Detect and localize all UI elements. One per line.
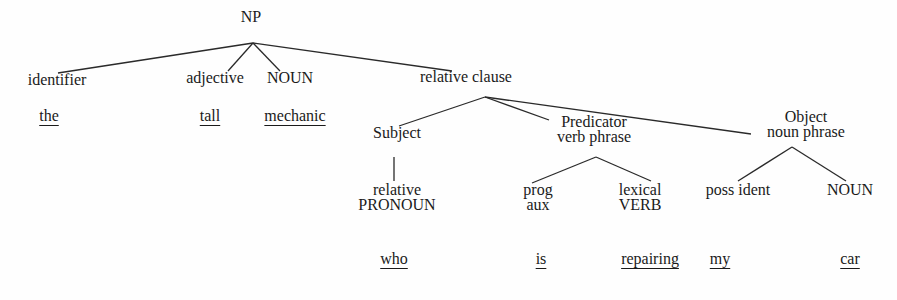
node-adjective: adjective (186, 70, 244, 85)
edge-object-noun2 (792, 147, 846, 181)
word-repairing: repairing (621, 250, 679, 268)
syntax-tree-diagram: NPidentifieradjectiveNOUNrelative clause… (0, 0, 897, 300)
word-is: is (536, 250, 547, 268)
node-label: adjective (186, 70, 244, 85)
edge-np-noun1 (253, 43, 280, 71)
node-label: aux (523, 197, 552, 212)
edge-relative-clause-predicator (485, 97, 549, 120)
word-the: the (39, 107, 59, 125)
node-label: NOUN (827, 182, 873, 197)
node-label: verb phrase (557, 129, 631, 144)
node-label: NP (241, 9, 261, 24)
word-tall: tall (200, 107, 220, 125)
edge-np-relative-clause (253, 43, 452, 71)
node-label: Subject (373, 125, 421, 140)
node-label: Predicator (557, 114, 631, 129)
word-my: my (710, 250, 730, 268)
edge-object-poss-ident (738, 147, 792, 181)
edge-predicator-prog-aux (532, 157, 596, 183)
node-label: prog (523, 182, 552, 197)
node-identifier: identifier (28, 72, 87, 87)
node-object: Objectnoun phrase (767, 109, 845, 139)
node-subject: Subject (373, 125, 421, 140)
node-noun1: NOUN (267, 70, 313, 85)
node-label: relative (358, 182, 435, 197)
node-label: poss ident (706, 182, 770, 197)
node-np: NP (241, 9, 261, 24)
node-prog-aux: progaux (523, 182, 552, 212)
edge-predicator-lexical-verb (596, 157, 651, 181)
node-lexical-verb: lexicalVERB (619, 182, 662, 212)
node-label: identifier (28, 72, 87, 87)
node-label: Object (767, 109, 845, 124)
word-car: car (840, 250, 860, 268)
word-who: who (380, 250, 408, 268)
node-label: PRONOUN (358, 197, 435, 212)
word-mechanic: mechanic (264, 107, 325, 125)
edge-relative-clause-subject (399, 97, 485, 126)
node-relative-pronoun: relativePRONOUN (358, 182, 435, 212)
node-relative-clause: relative clause (420, 69, 512, 84)
node-predicator: Predicatorverb phrase (557, 114, 631, 144)
node-noun2: NOUN (827, 182, 873, 197)
node-label: noun phrase (767, 124, 845, 139)
node-label: lexical (619, 182, 662, 197)
node-label: NOUN (267, 70, 313, 85)
node-label: relative clause (420, 69, 512, 84)
tree-edges (0, 0, 897, 300)
node-poss-ident: poss ident (706, 182, 770, 197)
node-label: VERB (619, 197, 662, 212)
edge-np-adjective (228, 43, 253, 71)
